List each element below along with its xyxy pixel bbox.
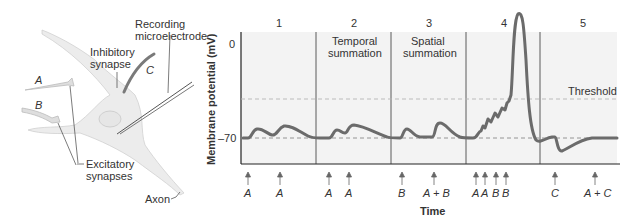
x-axis-label: Time (420, 205, 445, 217)
panel-5-number: 5 (580, 17, 586, 29)
label-synapses: synapses (86, 170, 133, 182)
panel-4-number: 4 (501, 17, 507, 29)
axon-a (25, 78, 74, 90)
stim-label: A (324, 187, 332, 199)
stim-label: A (471, 187, 479, 199)
stim-label: A (344, 187, 352, 199)
panel-2-number: 2 (351, 17, 357, 29)
y-axis-label: Membrane potential (mV) (205, 33, 217, 165)
panel-1-number: 1 (276, 17, 282, 29)
threshold-label: Threshold (568, 85, 617, 97)
membrane-potential-chart: Membrane potential (mV) 0 –70 1 2 3 4 5 … (205, 13, 620, 217)
stimulus-arrows (246, 172, 598, 185)
label-a: A (34, 74, 42, 86)
stim-label: A + B (422, 187, 450, 199)
stim-label: A + C (583, 187, 611, 199)
stim-label: C (551, 187, 559, 199)
stimulus-labels: A A A A B A + B A A B B C A + C (243, 187, 611, 199)
label-axon: Axon (145, 193, 170, 205)
stim-label: A (480, 187, 488, 199)
panel-3-title-1: Spatial (411, 35, 445, 47)
label-b: B (35, 99, 42, 111)
panel-2-title-2: summation (328, 47, 382, 59)
label-inhibitory: Inhibitory (90, 46, 135, 58)
label-excitatory: Excitatory (86, 158, 135, 170)
ytick-70: –70 (218, 132, 236, 144)
figure: Recording microelectrode Inhibitory syna… (0, 0, 635, 221)
label-c: C (146, 64, 154, 76)
label-synapse: synapse (90, 58, 131, 70)
panel-2-title-1: Temporal (332, 35, 377, 47)
stim-label: A (275, 187, 283, 199)
nucleus (99, 111, 121, 127)
label-recording: Recording (135, 18, 185, 30)
label-microelectrode: microelectrode (135, 30, 207, 42)
stim-label: B (398, 187, 405, 199)
ytick-0: 0 (229, 38, 235, 50)
panel-3-title-2: summation (403, 47, 457, 59)
stim-label: B (502, 187, 509, 199)
stim-label: A (243, 187, 251, 199)
neuron-illustration: Recording microelectrode Inhibitory syna… (22, 18, 207, 205)
stim-label: B (492, 187, 499, 199)
panel-3-number: 3 (426, 17, 432, 29)
